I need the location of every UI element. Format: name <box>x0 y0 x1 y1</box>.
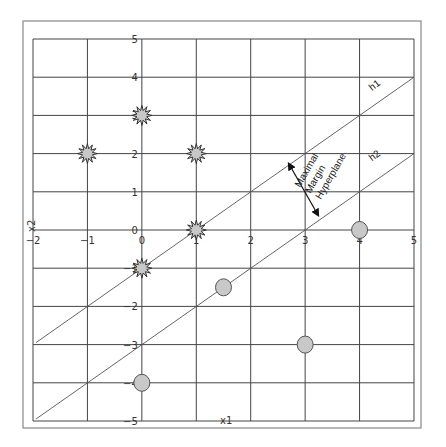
y-tick-label: 2 <box>131 149 137 160</box>
y-tick-label: 1 <box>131 187 137 198</box>
x-tick-label: 0 <box>139 235 145 246</box>
circle-point <box>134 374 150 391</box>
y-tick-label: 4 <box>131 72 137 83</box>
margin-annotation: MaximalMarginHyperplane <box>289 139 348 215</box>
hyperplane-label-h2: h2 <box>367 147 383 163</box>
x-tick-label: −1 <box>80 235 95 246</box>
hyperplane-h1 <box>36 77 414 342</box>
y-axis-label: x2 <box>26 220 37 232</box>
circle-point <box>297 336 313 353</box>
svm-margin-chart: −2−1012345543210−1−2−3−4−5 h1h2 MaximalM… <box>0 0 446 447</box>
y-tick-label: 0 <box>131 225 137 236</box>
star-point <box>132 258 152 278</box>
hyperplane-label-h1: h1 <box>367 77 383 93</box>
x-tick-label: 3 <box>302 235 308 246</box>
y-tick-label: −5 <box>123 416 138 427</box>
data-points <box>77 105 367 391</box>
y-tick-label: 5 <box>131 34 137 45</box>
circle-point <box>216 279 232 296</box>
x-axis-label: x1 <box>220 415 232 426</box>
x-tick-label: 5 <box>411 235 417 246</box>
star-point <box>77 144 97 164</box>
x-tick-label: −2 <box>26 235 41 246</box>
y-tick-label: −2 <box>123 301 138 312</box>
star-point <box>186 144 206 164</box>
hyperplanes: h1h2 <box>36 77 414 419</box>
star-point <box>132 105 152 125</box>
circle-point <box>352 222 368 239</box>
x-tick-label: 2 <box>248 235 254 246</box>
star-point <box>186 220 206 240</box>
